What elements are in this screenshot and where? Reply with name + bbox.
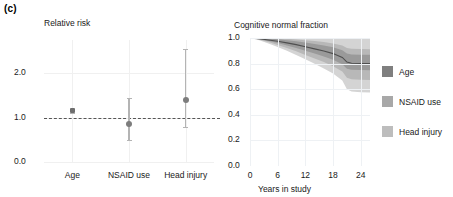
- gridline-horizontal: [250, 115, 370, 116]
- y-tick-label: 0.0: [228, 160, 240, 170]
- gridline-vertical: [250, 38, 251, 166]
- y-tick-label: 1.0: [14, 112, 26, 122]
- survival-curve-svg: [250, 38, 370, 166]
- relative-risk-title: Relative risk: [44, 18, 90, 28]
- error-bar-cap: [70, 113, 75, 114]
- gridline-horizontal: [250, 89, 370, 90]
- gridline-vertical: [72, 40, 73, 162]
- y-tick-label: 0.2: [228, 134, 240, 144]
- legend-swatch: [382, 66, 393, 77]
- legend-item[interactable]: NSAID use: [382, 96, 441, 107]
- cognitive-normal-fraction-title: Cognitive normal fraction: [234, 20, 328, 30]
- error-bar: [128, 98, 130, 140]
- gridline-horizontal: [250, 140, 370, 141]
- legend-label: Age: [399, 67, 414, 77]
- legend-swatch: [382, 96, 393, 107]
- y-tick-label: 0.8: [228, 58, 240, 68]
- legend-item[interactable]: Age: [382, 66, 414, 77]
- error-bar-cap: [127, 140, 132, 141]
- error-bar-cap: [127, 98, 132, 99]
- y-tick-label: 0.4: [228, 109, 240, 119]
- gridline-vertical: [333, 38, 334, 166]
- x-tick-label: 18: [321, 170, 345, 180]
- legend-label: NSAID use: [399, 97, 441, 107]
- y-tick-label: 1.0: [228, 32, 240, 42]
- gridline-vertical: [278, 38, 279, 166]
- legend-label: Head injury: [399, 127, 442, 137]
- figure-panel-c: (c) Relative risk 0.01.02.0AgeNSAID useH…: [0, 0, 453, 197]
- y-tick-label: 0.6: [228, 83, 240, 93]
- survival-plot-area: [250, 38, 370, 166]
- error-bar-cap: [183, 49, 188, 50]
- data-point: [126, 121, 132, 127]
- reference-line: [44, 118, 220, 119]
- data-point: [183, 97, 189, 103]
- gridline-horizontal: [44, 162, 214, 163]
- gridline-vertical: [305, 38, 306, 166]
- relative-risk-plot-area: [44, 40, 214, 162]
- legend-swatch: [382, 126, 393, 137]
- x-axis-label: Years in study: [258, 184, 311, 194]
- y-tick-label: 0.0: [14, 156, 26, 166]
- y-tick-label: 2.0: [14, 67, 26, 77]
- legend-item[interactable]: Head injury: [382, 126, 442, 137]
- error-bar: [185, 49, 187, 128]
- gridline-vertical: [361, 38, 362, 166]
- gridline-horizontal: [250, 64, 370, 65]
- x-tick-label: 24: [349, 170, 373, 180]
- x-tick-label: 12: [293, 170, 317, 180]
- x-category-label: Head injury: [151, 170, 221, 180]
- cognitive-normal-fraction-chart: Cognitive normal fraction 0.00.20.40.60.…: [226, 0, 453, 197]
- data-point: [70, 108, 75, 113]
- error-bar-cap: [183, 127, 188, 128]
- relative-risk-chart: Relative risk 0.01.02.0AgeNSAID useHead …: [0, 0, 226, 197]
- x-tick-label: 6: [266, 170, 290, 180]
- gridline-horizontal: [250, 38, 370, 39]
- x-tick-label: 0: [238, 170, 262, 180]
